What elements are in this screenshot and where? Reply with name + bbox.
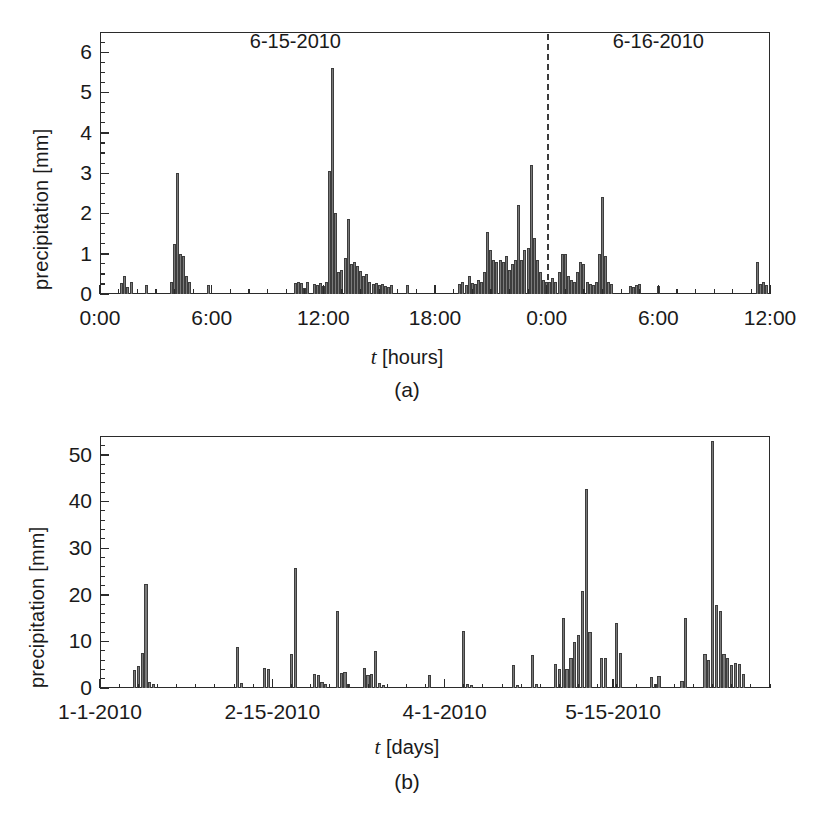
tick-mark [100, 294, 109, 295]
tick-mark [100, 529, 105, 530]
tick-mark [176, 684, 177, 688]
tick-mark [286, 289, 287, 294]
tick-mark [769, 285, 770, 294]
tick-mark [472, 289, 473, 294]
tick-mark [100, 122, 105, 123]
x-tick-label: 1-1-2010 [58, 700, 142, 724]
tick-mark [100, 62, 105, 63]
tick-mark [540, 684, 541, 688]
tick-mark [100, 213, 109, 214]
tick-mark [463, 684, 464, 688]
tick-mark [100, 32, 105, 33]
date-label-day1: 6-15-2010 [250, 30, 341, 53]
tick-mark [482, 684, 483, 688]
tick-mark [100, 678, 105, 679]
tick-mark [636, 684, 637, 688]
tick-mark [616, 684, 617, 688]
tick-mark [253, 684, 254, 688]
tick-mark [695, 289, 696, 294]
midnight-divider [547, 34, 549, 290]
tick-mark [100, 585, 105, 586]
tick-mark [490, 289, 491, 294]
y-tick-label: 10 [69, 629, 92, 653]
tick-mark [230, 289, 231, 294]
tick-mark [100, 253, 109, 254]
tick-mark [714, 289, 715, 294]
tick-mark [693, 684, 694, 688]
tick-mark [360, 289, 361, 294]
tick-mark [304, 289, 305, 294]
tick-mark [99, 679, 100, 688]
tick-mark [100, 557, 105, 558]
tick-mark [100, 641, 109, 642]
x-tick-label: 12:00 [744, 306, 797, 330]
tick-mark [639, 289, 640, 294]
tick-mark [597, 684, 598, 688]
y-tick-label: 4 [80, 121, 92, 145]
tick-mark [100, 622, 105, 623]
tick-mark [425, 684, 426, 688]
tick-mark [100, 520, 105, 521]
tick-mark [323, 285, 324, 294]
tick-mark [100, 464, 105, 465]
tick-mark [100, 548, 109, 549]
tick-mark [387, 684, 388, 688]
tick-mark [434, 285, 435, 294]
x-axis-title-a: t [hours] [0, 345, 814, 370]
tick-mark [100, 223, 105, 224]
tick-mark [379, 289, 380, 294]
tick-mark [770, 684, 771, 688]
tick-mark [368, 684, 369, 688]
y-tick-label: 40 [69, 489, 92, 513]
tick-mark [234, 684, 235, 688]
x-tick-label: 2-15-2010 [224, 700, 320, 724]
tick-mark [100, 454, 109, 455]
tick-mark [100, 501, 109, 502]
tick-mark [100, 669, 105, 670]
y-tick-label: 6 [80, 40, 92, 64]
date-label-day2: 6-16-2010 [613, 30, 704, 53]
tick-mark [100, 163, 105, 164]
tick-mark [348, 684, 349, 688]
tick-mark [100, 183, 105, 184]
tick-mark [621, 289, 622, 294]
tick-mark [100, 42, 105, 43]
tick-mark [193, 289, 194, 294]
y-tick-label: 0 [80, 676, 92, 700]
tick-mark [612, 679, 613, 688]
tick-mark [155, 289, 156, 294]
tick-mark [211, 285, 212, 294]
y-tick-label: 50 [69, 443, 92, 467]
x-tick-label: 0:00 [80, 306, 121, 330]
tick-mark [291, 684, 292, 688]
tick-mark [267, 289, 268, 294]
tick-mark [578, 684, 579, 688]
tick-mark [100, 193, 105, 194]
tick-mark [100, 173, 109, 174]
x-axis-title-unit-a: [hours] [377, 346, 444, 368]
tick-mark [100, 203, 105, 204]
tick-mark [100, 473, 105, 474]
x-tick-label: 5-15-2010 [565, 700, 661, 724]
tick-mark [100, 632, 105, 633]
tick-mark [214, 684, 215, 688]
tick-mark [118, 289, 119, 294]
tick-mark [119, 684, 120, 688]
x-tick-label: 6:00 [191, 306, 232, 330]
tick-mark [174, 289, 175, 294]
tick-mark [100, 538, 105, 539]
tick-mark [406, 684, 407, 688]
x-tick-label: 0:00 [526, 306, 567, 330]
tick-mark [341, 289, 342, 294]
tick-mark [100, 152, 105, 153]
tick-mark [676, 289, 677, 294]
y-axis-title-a: precipitation [mm] [30, 129, 53, 290]
tick-mark [310, 684, 311, 688]
tick-mark [100, 650, 105, 651]
subcaption-a: (a) [0, 378, 814, 402]
tick-mark [100, 613, 105, 614]
tick-mark [521, 684, 522, 688]
tick-mark [502, 684, 503, 688]
tick-mark [100, 492, 105, 493]
tick-mark [100, 102, 105, 103]
